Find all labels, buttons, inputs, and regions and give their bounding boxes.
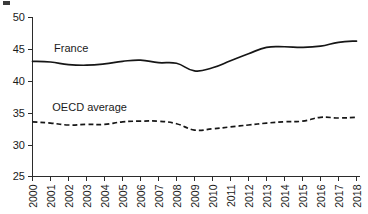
chart-container: 50 45 40 35 30 25 2000200120022003200420… xyxy=(0,0,368,214)
y-tick-label-30: 30 xyxy=(13,139,25,151)
series-label-france: France xyxy=(54,42,88,54)
x-tick-label-2005: 2005 xyxy=(117,184,129,208)
x-tick-labels: 2000200120022003200420052006200720082009… xyxy=(27,184,363,208)
x-tick-label-2011: 2011 xyxy=(225,184,237,207)
x-tick-label-2001: 2001 xyxy=(45,184,57,208)
x-tick-label-2014: 2014 xyxy=(279,184,291,208)
x-tick-label-2012: 2012 xyxy=(243,184,255,208)
x-tick-label-2018: 2018 xyxy=(351,184,363,208)
x-axis: 2000200120022003200420052006200720082009… xyxy=(27,177,363,208)
x-tick-label-2003: 2003 xyxy=(81,184,93,208)
series-line-oecd xyxy=(33,117,357,130)
x-tick-label-2000: 2000 xyxy=(27,184,39,208)
x-tick-label-2009: 2009 xyxy=(189,184,201,208)
x-tick-label-2007: 2007 xyxy=(153,184,165,208)
x-tick-label-2004: 2004 xyxy=(99,184,111,208)
x-tick-label-2010: 2010 xyxy=(207,184,219,208)
x-tick-label-2008: 2008 xyxy=(171,184,183,208)
x-tick-label-2006: 2006 xyxy=(135,184,147,208)
crop-artifact-mark xyxy=(3,1,10,5)
series-annotations: France OECD average xyxy=(52,42,127,113)
y-tick-label-50: 50 xyxy=(13,11,25,23)
y-axis: 50 45 40 35 30 25 xyxy=(13,11,33,182)
y-tick-label-35: 35 xyxy=(13,107,25,119)
y-tick-label-40: 40 xyxy=(13,75,25,87)
x-tick-label-2017: 2017 xyxy=(333,184,345,208)
x-tick-label-2016: 2016 xyxy=(315,184,327,208)
x-tick-label-2015: 2015 xyxy=(297,184,309,208)
y-tick-label-25: 25 xyxy=(13,170,25,182)
y-tick-label-45: 45 xyxy=(13,43,25,55)
x-tick-label-2013: 2013 xyxy=(261,184,273,208)
series-group xyxy=(33,41,357,130)
x-tick-label-2002: 2002 xyxy=(63,184,75,208)
x-tick-marks xyxy=(33,177,357,182)
line-chart: 50 45 40 35 30 25 2000200120022003200420… xyxy=(0,0,368,214)
series-label-oecd: OECD average xyxy=(52,101,127,113)
